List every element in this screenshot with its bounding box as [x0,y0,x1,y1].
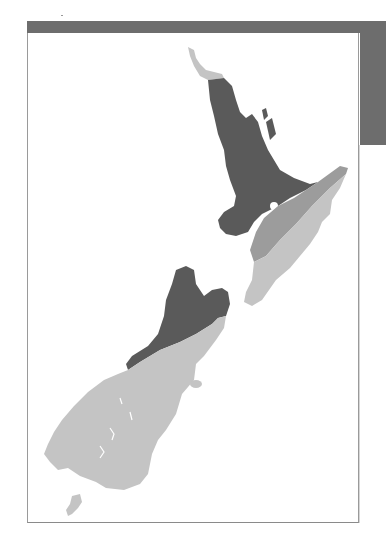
island-gulf [262,108,268,120]
stewart-island [66,494,82,516]
region-south-island-light [44,316,226,490]
banks-peninsula [190,380,202,388]
new-zealand-map [0,0,386,559]
island-coromandel [266,118,276,140]
region-north-tip [188,47,224,80]
